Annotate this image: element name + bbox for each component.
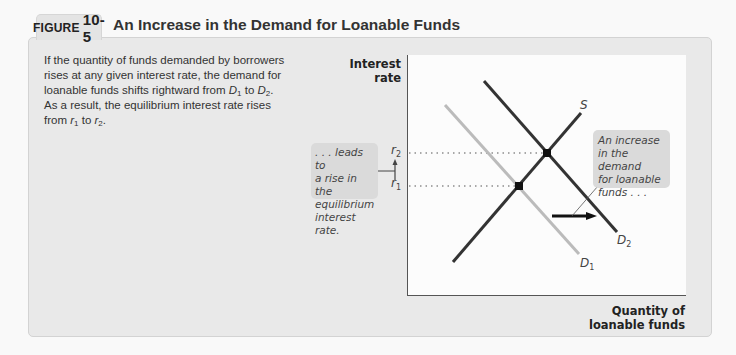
supply-curve-label: S: [580, 98, 588, 112]
up-arrowhead-icon: [393, 159, 398, 165]
figure-tab: FIGURE 10-5: [36, 14, 102, 40]
y-tick-r2: r2: [391, 143, 401, 157]
d1-curve-label: D1: [580, 256, 594, 270]
arrowhead-icon: [586, 212, 597, 220]
demand-curve-d1: [445, 105, 579, 254]
rate-rise-callout: . . . leads to a rise in the equilibrium…: [311, 143, 378, 199]
d2-curve-label: D2: [617, 233, 631, 247]
equilibrium-point-r1: [515, 182, 523, 190]
figure-tab-prefix: FIGURE: [33, 21, 80, 35]
callout-leader-line: [572, 186, 598, 216]
y-tick-r1: r1: [391, 176, 401, 190]
equilibrium-point-r2: [543, 149, 551, 157]
figure-number: 10-5: [83, 11, 105, 45]
demand-increase-callout: An increase in the demand for loanable f…: [593, 130, 670, 188]
x-axis-label: Quantity of loanable funds: [589, 304, 685, 332]
